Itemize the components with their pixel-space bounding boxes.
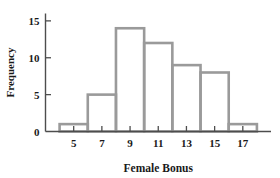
chart-plot-area: 051015 57911131517 Frequency Female Bonu…	[0, 0, 280, 178]
y-axis-title: Frequency	[4, 47, 16, 97]
x-tick-label: 17	[237, 137, 249, 149]
histogram-bar	[172, 65, 200, 131]
x-tick-label: 7	[99, 137, 105, 149]
bars-group	[60, 28, 257, 131]
axes-group	[46, 14, 272, 132]
histogram-bar	[201, 73, 229, 132]
histogram-bar	[88, 95, 116, 132]
histogram-bar	[116, 28, 144, 131]
x-axis-title: Female Bonus	[124, 162, 194, 174]
y-tick-label: 15	[29, 15, 41, 27]
x-tick-label: 11	[153, 137, 163, 149]
y-tick-label: 5	[34, 89, 40, 101]
x-tick-label: 9	[127, 137, 133, 149]
x-tick-label: 5	[71, 137, 77, 149]
y-tick-label: 0	[34, 126, 40, 138]
x-tick-label: 15	[209, 137, 221, 149]
histogram-chart: 051015 57911131517 Frequency Female Bonu…	[0, 0, 280, 178]
x-tick-label: 13	[181, 137, 193, 149]
histogram-bar	[144, 43, 172, 132]
y-axis-ticks: 051015	[29, 15, 52, 138]
y-tick-label: 10	[29, 52, 41, 64]
x-axis-ticks: 57911131517	[71, 126, 249, 149]
